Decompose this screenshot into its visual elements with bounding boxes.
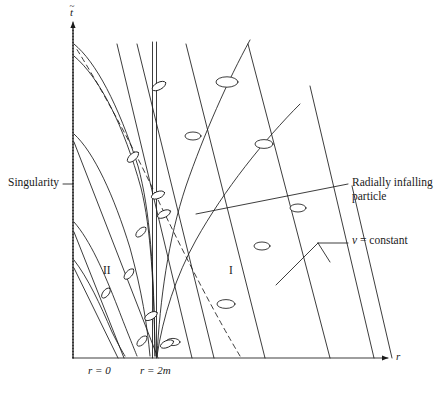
light-cone (290, 204, 306, 212)
axis-origin-label: r = 0 (88, 364, 111, 377)
ingoing-null-lines-region-II (74, 142, 158, 358)
light-cone-group (100, 77, 306, 350)
axis-x-label: r (396, 350, 400, 363)
region-inner-label: II (103, 264, 111, 278)
light-cone (151, 79, 168, 92)
v-constant-text: = constant (357, 234, 408, 246)
light-cone (134, 225, 148, 239)
light-cone (185, 132, 201, 140)
axis-y-label-text: t (70, 6, 73, 19)
light-cone (217, 300, 235, 309)
v-constant-label: v = constant (352, 234, 408, 248)
infalling-particle-label: Radially infallingparticle (352, 176, 433, 203)
infalling-particle-label-line2: particle (352, 190, 386, 202)
singularity-label: Singularity (8, 176, 59, 190)
axis-horizon-label: r = 2m (140, 364, 171, 377)
infalling-particle-worldline (76, 48, 240, 356)
eddington-finkelstein-figure: Singularity r = 0 r = 2m r t I II Radial… (0, 0, 441, 396)
outgoing-null-curves (74, 40, 300, 356)
light-cone (254, 242, 270, 250)
light-cone (135, 334, 149, 348)
light-cone (216, 77, 238, 87)
leader-v-constant (276, 243, 348, 285)
light-cone (100, 286, 112, 299)
infalling-particle-label-line1: Radially infalling (352, 176, 433, 188)
light-cone (122, 267, 135, 281)
axis-y-label: t (70, 6, 73, 19)
leader-radially-infalling-particle (196, 184, 348, 214)
light-cone (156, 208, 172, 220)
region-outer-label: I (229, 264, 233, 278)
light-cone (255, 140, 273, 149)
